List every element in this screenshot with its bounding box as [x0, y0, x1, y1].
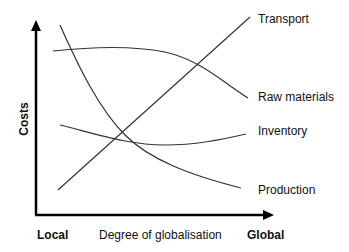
y-axis-label: Costs	[17, 101, 31, 137]
raw-materials-label: Raw materials	[258, 90, 334, 104]
transport-curve	[58, 17, 250, 190]
x-axis-label: Degree of globalisation	[99, 228, 222, 242]
x-start-label: Local	[37, 228, 68, 242]
production-label: Production	[258, 183, 315, 197]
inventory-label: Inventory	[258, 124, 307, 138]
x-axis-arrow-icon	[263, 210, 274, 220]
y-axis-arrow-icon	[31, 20, 41, 31]
inventory-curve	[60, 125, 246, 145]
globalisation-cost-diagram: Transport Raw materials Inventory Produc…	[0, 0, 349, 252]
x-end-label: Global	[247, 228, 284, 242]
transport-label: Transport	[258, 12, 309, 26]
